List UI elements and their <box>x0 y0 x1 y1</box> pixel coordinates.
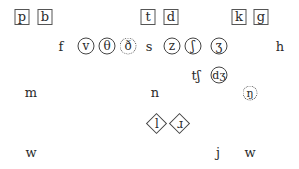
phoneme-r-diamond: ɹ <box>169 113 191 135</box>
phoneme-g-box: g <box>254 9 269 25</box>
phoneme-k-box: k <box>232 9 247 25</box>
phoneme-b-box: b <box>38 9 53 25</box>
phoneme-m: m <box>25 86 37 99</box>
phoneme-l-diamond: l <box>146 113 168 135</box>
phoneme-w-left: w <box>25 146 36 159</box>
phoneme-z-circle: z <box>164 38 181 55</box>
phoneme-w-right: w <box>244 146 255 159</box>
phoneme-s: s <box>146 40 153 53</box>
phoneme-n: n <box>151 86 159 99</box>
phoneme-l-label: l <box>146 113 168 135</box>
phoneme-theta-circle: θ <box>99 38 116 55</box>
phoneme-eth-dotted-circle: ð <box>120 38 137 55</box>
phoneme-t-box: t <box>141 9 156 25</box>
phoneme-tesh: tʃ <box>192 69 201 82</box>
phoneme-j: j <box>216 146 220 159</box>
phoneme-eng-dotted-circle: ŋ <box>243 86 258 101</box>
phoneme-p-box: p <box>15 9 30 25</box>
phoneme-ezh-circle: ʒ <box>211 38 228 55</box>
phoneme-h: h <box>276 40 284 53</box>
phoneme-esh-circle: ʃ <box>185 38 202 55</box>
phoneme-r-label: ɹ <box>169 113 191 135</box>
phoneme-v-circle: v <box>78 38 95 55</box>
phoneme-dezh-circle: dʒ <box>211 67 228 84</box>
phoneme-d-box: d <box>164 9 179 25</box>
phoneme-f: f <box>59 40 64 53</box>
